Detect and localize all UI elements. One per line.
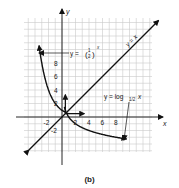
x-tick-label: -2 — [44, 119, 50, 126]
exp-paren-close: ) — [92, 50, 95, 59]
x-tick-label: 2 — [74, 119, 78, 126]
exp-label: y = — [70, 50, 79, 58]
log-label: y = log — [104, 93, 124, 101]
y-tick-label: 2 — [54, 100, 58, 107]
y-tick-label: 4 — [54, 87, 58, 94]
identity-label: y = x — [123, 32, 140, 49]
chart-svg: -224688642-2xyy = (12)xy = log1/2xy = x — [0, 0, 179, 188]
x-axis-label: x — [162, 120, 167, 127]
log-annotation-arrow — [124, 102, 129, 140]
exp-base-numerator: 1 — [88, 48, 91, 53]
y-tick-label: -2 — [51, 127, 57, 134]
log-subscript: 1/2 — [129, 97, 136, 102]
y-tick-label: 6 — [54, 73, 58, 80]
figure-caption: (b) — [0, 175, 179, 184]
x-tick-label: 6 — [101, 119, 105, 126]
x-tick-label: 4 — [87, 119, 91, 126]
y-tick-label: 8 — [54, 60, 58, 67]
y-axis-label: y — [65, 8, 70, 16]
x-tick-label: 8 — [114, 119, 118, 126]
